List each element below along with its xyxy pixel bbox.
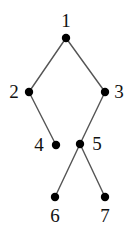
graph-node-3[interactable] bbox=[101, 88, 109, 96]
graph-node-label-5: 5 bbox=[87, 134, 107, 153]
graph-edge-1-3 bbox=[66, 38, 105, 92]
node-layer bbox=[25, 34, 109, 201]
graph-node-label-1: 1 bbox=[56, 11, 76, 30]
graph-node-1[interactable] bbox=[62, 34, 70, 42]
graph-node-label-7: 7 bbox=[95, 206, 115, 225]
graph-canvas bbox=[0, 0, 129, 236]
graph-node-label-3: 3 bbox=[109, 82, 129, 101]
graph-node-5[interactable] bbox=[76, 140, 84, 148]
graph-node-4[interactable] bbox=[52, 141, 60, 149]
graph-node-2[interactable] bbox=[25, 88, 33, 96]
graph-node-6[interactable] bbox=[51, 193, 59, 201]
graph-edge-1-2 bbox=[29, 38, 66, 92]
graph-edge-5-6 bbox=[55, 144, 80, 197]
graph-node-label-4: 4 bbox=[29, 135, 49, 154]
graph-node-label-6: 6 bbox=[45, 206, 65, 225]
graph-node-label-2: 2 bbox=[4, 82, 24, 101]
graph-node-7[interactable] bbox=[101, 193, 109, 201]
graph-figure: 1234567 bbox=[0, 0, 129, 236]
edge-layer bbox=[29, 38, 105, 197]
